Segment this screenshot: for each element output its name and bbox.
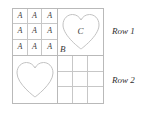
grid-cell: A bbox=[42, 40, 57, 55]
grid-cell: A bbox=[28, 9, 43, 24]
grid-cell: A bbox=[13, 9, 28, 24]
grid-cell bbox=[73, 72, 88, 88]
grid-cell: A bbox=[42, 9, 57, 24]
heart-icon bbox=[13, 56, 57, 103]
grid-bottom-right bbox=[58, 56, 103, 103]
quadrant-bottom-left bbox=[13, 56, 58, 103]
quadrant-bottom-right bbox=[58, 56, 103, 103]
quadrant-figure: A A A A A A A A A C B bbox=[12, 8, 104, 104]
corner-label-b: B bbox=[60, 45, 66, 54]
quadrant-top-left: A A A A A A A A A bbox=[13, 9, 58, 56]
grid-cell bbox=[58, 87, 73, 103]
grid-cell bbox=[88, 87, 103, 103]
quadrant-top-right: C B bbox=[58, 9, 103, 56]
grid-cell bbox=[88, 56, 103, 72]
grid-cell: A bbox=[28, 24, 43, 39]
grid-cell bbox=[88, 72, 103, 88]
row-label-2: Row 2 bbox=[112, 76, 135, 85]
grid-cell: A bbox=[13, 40, 28, 55]
grid-top-left: A A A A A A A A A bbox=[13, 9, 57, 55]
grid-cell bbox=[58, 72, 73, 88]
grid-cell: A bbox=[28, 40, 43, 55]
grid-cell bbox=[73, 56, 88, 72]
grid-cell bbox=[58, 56, 73, 72]
grid-cell: A bbox=[13, 24, 28, 39]
row-label-1: Row 1 bbox=[112, 27, 135, 36]
grid-cell: A bbox=[42, 24, 57, 39]
grid-cell bbox=[73, 87, 88, 103]
